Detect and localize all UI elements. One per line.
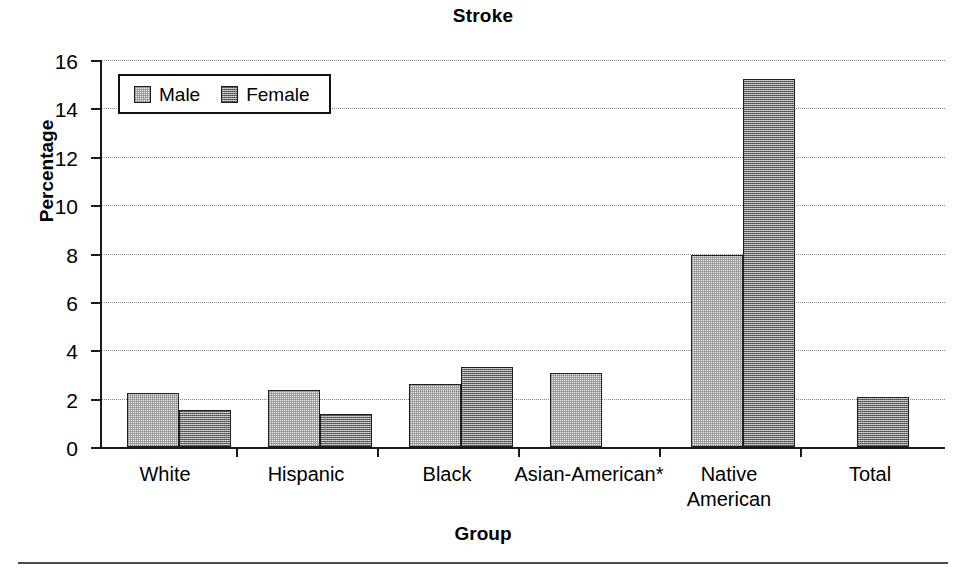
legend-swatch-female-icon <box>221 86 238 103</box>
bar-total <box>857 397 909 447</box>
y-tick-label-2: 2 <box>38 390 78 411</box>
legend-swatch-male-icon <box>134 86 151 103</box>
bar-black-female <box>461 367 513 447</box>
plot-area: 16 14 12 10 8 6 4 2 0 <box>100 60 945 447</box>
bar-black-male <box>409 384 461 447</box>
y-tick-label-16: 16 <box>38 51 78 72</box>
x-tick-3 <box>518 447 520 457</box>
chart-figure: Stroke Percentage 16 14 12 10 8 6 <box>0 0 966 580</box>
y-tick-14: 14 <box>91 108 100 110</box>
bar-hispanic-female <box>320 414 372 447</box>
bar-native-american-female <box>743 79 795 447</box>
bar-hispanic-male <box>268 390 320 447</box>
chart-title: Stroke <box>0 5 966 27</box>
bar-asian-american-male <box>550 373 602 447</box>
y-tick-label-14: 14 <box>38 99 78 120</box>
y-tick-label-8: 8 <box>38 245 78 266</box>
legend-entry-female: Female <box>221 85 309 104</box>
page-divider-rule <box>18 562 948 564</box>
gridline-6 <box>100 302 945 303</box>
y-tick-12: 12 <box>91 157 100 159</box>
bar-white-female <box>179 410 231 448</box>
x-label-native-american: Native American <box>663 462 795 512</box>
x-label-white: White <box>99 462 231 487</box>
y-tick-label-0: 0 <box>38 438 78 459</box>
y-tick-6: 6 <box>91 302 100 304</box>
x-tick-2 <box>377 447 379 457</box>
legend-entry-male: Male <box>134 85 200 104</box>
y-axis-line <box>100 60 102 447</box>
chart-legend: Male Female <box>118 74 331 114</box>
x-tick-5 <box>800 447 802 457</box>
x-axis-title: Group <box>0 523 966 545</box>
y-tick-2: 2 <box>91 399 100 401</box>
bar-native-american-male <box>691 255 743 447</box>
y-tick-8: 8 <box>91 254 100 256</box>
x-tick-1 <box>236 447 238 457</box>
x-label-total: Total <box>804 462 936 487</box>
y-tick-16: 16 <box>91 60 100 62</box>
y-tick-4: 4 <box>91 350 100 352</box>
gridline-12 <box>100 157 945 158</box>
x-label-hispanic: Hispanic <box>240 462 372 487</box>
gridline-8 <box>100 254 945 255</box>
x-label-asian-american: Asian-American* <box>494 462 684 487</box>
legend-label-female: Female <box>246 85 309 104</box>
y-tick-10: 10 <box>91 205 100 207</box>
gridline-10 <box>100 205 945 206</box>
y-tick-label-4: 4 <box>38 341 78 362</box>
gridline-2 <box>100 399 945 400</box>
y-tick-label-6: 6 <box>38 293 78 314</box>
bar-white-male <box>127 393 179 447</box>
y-tick-label-12: 12 <box>38 148 78 169</box>
gridline-16 <box>100 60 945 61</box>
y-tick-label-10: 10 <box>38 196 78 217</box>
legend-label-male: Male <box>159 85 200 104</box>
gridline-4 <box>100 350 945 351</box>
x-tick-4 <box>659 447 661 457</box>
